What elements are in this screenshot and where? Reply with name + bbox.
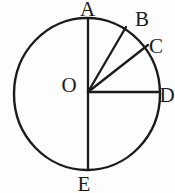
radius-oc-line xyxy=(88,45,148,92)
point-label-c: C xyxy=(149,34,163,58)
point-label-b: B xyxy=(135,7,149,31)
point-label-e: E xyxy=(78,172,91,193)
center-label-o: O xyxy=(61,73,76,97)
circle-diagram-canvas: A B C D O E xyxy=(0,0,175,193)
circle-diagram: A B C D O E xyxy=(0,0,175,193)
point-label-d: D xyxy=(159,83,174,107)
point-label-a: A xyxy=(80,0,96,21)
radius-ob-line xyxy=(88,27,126,92)
